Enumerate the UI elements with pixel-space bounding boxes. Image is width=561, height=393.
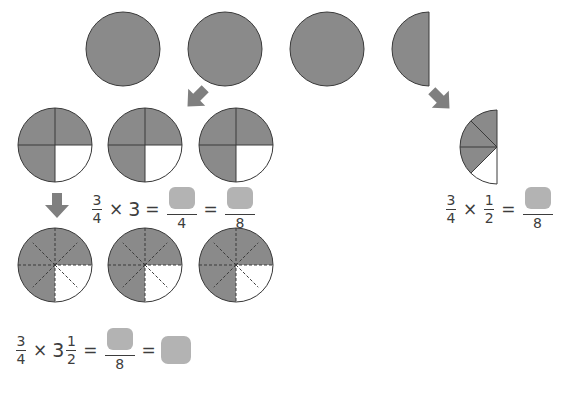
quarter-circle: [199, 108, 273, 182]
fraction-blank-over-eight: 8: [523, 187, 553, 231]
answer-blank[interactable]: [169, 187, 195, 209]
arrow-shape: [45, 193, 69, 218]
answer-blank[interactable]: [525, 187, 551, 209]
equals-sign: =: [83, 340, 97, 360]
denominator: 4: [92, 211, 102, 226]
equation-three-quarters-times-three-and-half: 3 4 × 3 1 2 = 8 =: [14, 328, 191, 372]
arrow-shape: [179, 80, 214, 115]
quarter-circles-row: [18, 108, 273, 182]
times-sign: ×: [463, 199, 477, 219]
denominator: 4: [446, 211, 456, 226]
equation-three-quarters-times-three: 3 4 × 3 = 4 = 8: [90, 187, 257, 231]
equals-sign: =: [145, 199, 159, 219]
answer-blank[interactable]: [107, 328, 133, 350]
unshaded-quarter: [236, 145, 273, 182]
equals-sign: =: [142, 340, 156, 360]
whole-circles-row: [86, 12, 429, 86]
fraction-three-quarters: 3 4: [446, 193, 456, 226]
fraction-blank-over-eight: 8: [225, 187, 255, 231]
fraction-blank-over-eight: 8: [105, 328, 135, 372]
arrow-shape: [423, 82, 458, 117]
answer-blank[interactable]: [227, 187, 253, 209]
half-circle: [392, 12, 429, 86]
equals-sign: =: [501, 199, 515, 219]
numerator: 3: [446, 193, 456, 208]
whole-circle: [290, 12, 364, 86]
unshaded-quarter: [145, 145, 182, 182]
numerator: 3: [92, 193, 102, 208]
whole-number: 3: [52, 339, 64, 361]
denominator: 8: [235, 216, 245, 231]
whole-circle: [188, 12, 262, 86]
fraction-three-quarters: 3 4: [92, 193, 102, 226]
denominator: 8: [533, 216, 543, 231]
arrow-down-left-icon: [179, 80, 214, 115]
times-sign: ×: [109, 199, 123, 219]
unshaded-quarter: [55, 145, 92, 182]
answer-blank-mixed-number[interactable]: [161, 336, 191, 364]
fraction-blank-over-four: 4: [167, 187, 197, 231]
eighth-circle: [108, 228, 182, 302]
arrow-down-right-icon: [423, 82, 458, 117]
quarter-circle: [108, 108, 182, 182]
whole-number: 3: [128, 198, 140, 220]
mixed-number-three-and-half: 3 1 2: [52, 334, 78, 367]
denominator: 4: [16, 352, 26, 367]
denominator: 8: [115, 357, 125, 372]
numerator: 1: [484, 193, 494, 208]
arrow-down-icon: [45, 193, 69, 218]
whole-circle: [86, 12, 160, 86]
half-circle-split: [460, 110, 497, 184]
fraction-one-half: 1 2: [484, 193, 494, 226]
denominator: 2: [66, 352, 76, 367]
denominator: 4: [177, 216, 187, 231]
quarter-circle: [18, 108, 92, 182]
numerator: 3: [16, 334, 26, 349]
denominator: 2: [484, 211, 494, 226]
eighth-circle: [18, 228, 92, 302]
times-sign: ×: [33, 340, 47, 360]
eighth-circle: [199, 228, 273, 302]
numerator: 1: [66, 334, 76, 349]
fraction-one-half: 1 2: [66, 334, 76, 367]
eighth-circles-row: [18, 228, 273, 302]
equals-sign: =: [204, 199, 218, 219]
fraction-three-quarters: 3 4: [16, 334, 26, 367]
equation-three-quarters-times-half: 3 4 × 1 2 = 8: [444, 187, 555, 231]
